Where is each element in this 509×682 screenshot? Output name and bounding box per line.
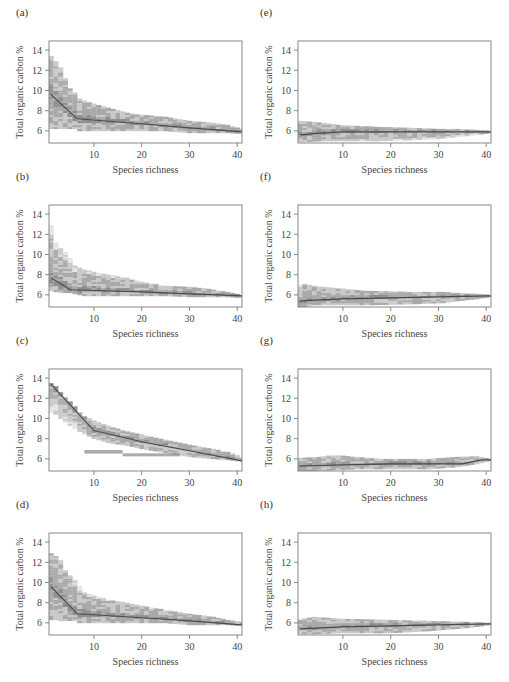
y-tick-label: 6 — [37, 453, 42, 464]
y-axis-title: Total organic carbon % — [263, 45, 274, 138]
density-bands — [49, 225, 245, 298]
x-axis: 10203040 — [338, 143, 491, 160]
panel-f: (f) 6810121410203040Species richnessTota… — [249, 170, 503, 336]
y-tick-label: 6 — [286, 125, 291, 136]
density-bands — [49, 553, 245, 626]
y-axis-title: Total organic carbon % — [263, 537, 274, 630]
panel-d: (d) 6810121410203040Species richnessTota… — [0, 498, 254, 664]
y-tick-label: 12 — [32, 65, 42, 76]
x-tick-label: 40 — [232, 313, 242, 324]
y-tick-label: 6 — [37, 125, 42, 136]
y-tick-label: 6 — [286, 289, 291, 300]
y-tick-label: 8 — [37, 269, 42, 280]
heatmap-plot: 6810121410203040Species richnessTotal or… — [0, 334, 254, 500]
x-tick-label: 40 — [481, 477, 491, 488]
x-tick-label: 30 — [433, 149, 443, 160]
y-tick-label: 6 — [37, 617, 42, 628]
y-tick-label: 14 — [281, 537, 291, 548]
x-tick-label: 40 — [232, 477, 242, 488]
y-tick-label: 10 — [32, 413, 42, 424]
x-tick-label: 40 — [481, 149, 491, 160]
heatmap-plot: 6810121410203040Species richnessTotal or… — [0, 498, 254, 664]
x-tick-label: 10 — [338, 149, 348, 160]
x-tick-label: 40 — [481, 641, 491, 652]
y-tick-label: 6 — [286, 453, 291, 464]
y-tick-label: 10 — [32, 85, 42, 96]
y-tick-label: 14 — [281, 373, 291, 384]
x-tick-label: 30 — [433, 313, 443, 324]
x-tick-label: 10 — [338, 641, 348, 652]
y-axis-title: Total organic carbon % — [263, 373, 274, 466]
y-tick-label: 12 — [32, 393, 42, 404]
y-tick-label: 8 — [286, 433, 291, 444]
y-axis: 68101214 — [281, 537, 298, 629]
y-tick-label: 8 — [286, 597, 291, 608]
heatmap-plot: 6810121410203040Species richnessTotal or… — [0, 6, 254, 172]
x-tick-label: 10 — [338, 477, 348, 488]
heatmap-plot: 6810121410203040Species richnessTotal or… — [249, 170, 503, 336]
y-tick-label: 10 — [281, 85, 291, 96]
x-axis: 10203040 — [89, 471, 242, 488]
x-tick-label: 40 — [232, 641, 242, 652]
y-tick-label: 10 — [32, 249, 42, 260]
y-tick-label: 8 — [286, 269, 291, 280]
x-axis: 10203040 — [338, 471, 491, 488]
x-tick-label: 20 — [137, 313, 147, 324]
x-tick-label: 20 — [137, 477, 147, 488]
x-tick-label: 30 — [184, 313, 194, 324]
x-tick-label: 10 — [89, 641, 99, 652]
density-bands — [298, 284, 494, 308]
y-tick-label: 12 — [32, 229, 42, 240]
y-tick-label: 14 — [32, 45, 42, 56]
x-tick-label: 20 — [137, 149, 147, 160]
y-axis: 68101214 — [32, 373, 49, 465]
y-tick-label: 12 — [281, 65, 291, 76]
y-tick-label: 8 — [286, 105, 291, 116]
x-tick-label: 30 — [184, 641, 194, 652]
x-tick-label: 10 — [89, 477, 99, 488]
x-tick-label: 30 — [433, 477, 443, 488]
x-tick-label: 30 — [433, 641, 443, 652]
y-axis-title: Total organic carbon % — [14, 209, 25, 302]
y-axis: 68101214 — [32, 537, 49, 629]
heatmap-plot: 6810121410203040Species richnessTotal or… — [249, 498, 503, 664]
y-tick-label: 12 — [281, 229, 291, 240]
y-tick-label: 10 — [32, 577, 42, 588]
panel-h: (h) 6810121410203040Species richnessTota… — [249, 498, 503, 664]
heatmap-plot: 6810121410203040Species richnessTotal or… — [0, 170, 254, 336]
y-axis: 68101214 — [32, 45, 49, 137]
y-tick-label: 6 — [286, 617, 291, 628]
x-tick-label: 40 — [232, 149, 242, 160]
y-tick-label: 14 — [32, 537, 42, 548]
y-tick-label: 14 — [32, 373, 42, 384]
y-tick-label: 12 — [281, 557, 291, 568]
y-tick-label: 10 — [281, 249, 291, 260]
x-tick-label: 20 — [386, 477, 396, 488]
y-tick-label: 14 — [281, 45, 291, 56]
x-axis: 10203040 — [89, 143, 242, 160]
x-tick-label: 40 — [481, 313, 491, 324]
x-tick-label: 20 — [386, 641, 396, 652]
y-tick-label: 12 — [281, 393, 291, 404]
y-tick-label: 12 — [32, 557, 42, 568]
y-axis-title: Total organic carbon % — [14, 373, 25, 466]
x-tick-label: 20 — [137, 641, 147, 652]
x-axis-title: Species richness — [362, 656, 428, 667]
x-tick-label: 20 — [386, 313, 396, 324]
x-axis: 10203040 — [338, 307, 491, 324]
y-tick-label: 6 — [37, 289, 42, 300]
y-axis: 68101214 — [32, 209, 49, 301]
y-axis: 68101214 — [281, 45, 298, 137]
x-axis: 10203040 — [338, 635, 491, 652]
y-tick-label: 8 — [37, 433, 42, 444]
panel-e: (e) 6810121410203040Species richnessTota… — [249, 6, 503, 172]
heatmap-plot: 6810121410203040Species richnessTotal or… — [249, 334, 503, 500]
panel-g: (g) 6810121410203040Species richnessTota… — [249, 334, 503, 500]
y-tick-label: 10 — [281, 413, 291, 424]
x-axis: 10203040 — [89, 635, 242, 652]
y-tick-label: 14 — [281, 209, 291, 220]
y-tick-label: 10 — [281, 577, 291, 588]
y-tick-label: 8 — [37, 597, 42, 608]
x-tick-label: 20 — [386, 149, 396, 160]
y-axis: 68101214 — [281, 209, 298, 301]
